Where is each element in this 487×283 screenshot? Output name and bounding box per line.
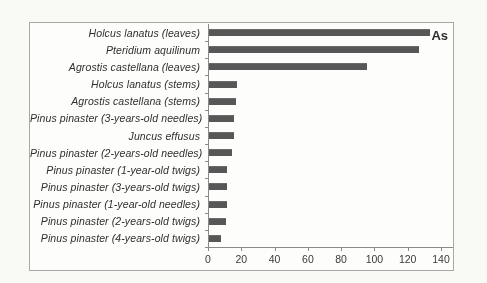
x-axis-tick <box>341 248 342 251</box>
x-axis-tick-label: 80 <box>335 253 347 265</box>
x-axis-tick-label: 100 <box>366 253 384 265</box>
bar <box>209 235 221 242</box>
chart-row: Pinus pinaster (1-year-old twigs) <box>30 161 453 178</box>
bar-track <box>208 144 453 161</box>
chart-row: Pinus pinaster (2-years-old needles) <box>30 144 453 161</box>
x-axis-tick-label: 140 <box>432 253 450 265</box>
bar-track <box>208 58 453 75</box>
bar <box>209 63 367 70</box>
chart-row: Pinus pinaster (3-years-old twigs) <box>30 178 453 195</box>
category-label: Pinus pinaster (4-years-old twigs) <box>30 232 208 244</box>
bar <box>209 166 227 173</box>
x-axis-tick <box>408 248 409 251</box>
x-axis-tick <box>308 248 309 251</box>
bar <box>209 201 227 208</box>
chart-row: Agrostis castellana (leaves) <box>30 58 453 75</box>
x-axis-tick-label: 0 <box>205 253 211 265</box>
bar-track <box>208 93 453 110</box>
chart-row: Agrostis castellana (stems) <box>30 93 453 110</box>
x-axis-tick-label: 60 <box>302 253 314 265</box>
chart-row: Pinus pinaster (4-years-old twigs) <box>30 230 453 247</box>
bar-track <box>208 161 453 178</box>
x-axis-tick <box>208 248 209 251</box>
bar-chart: Holcus lanatus (leaves)Pteridium aquilin… <box>29 22 454 271</box>
category-label: Holcus lanatus (stems) <box>30 78 208 90</box>
bar <box>209 149 232 156</box>
chart-row: Holcus lanatus (leaves) <box>30 24 453 41</box>
bar <box>209 132 234 139</box>
chart-row: Pinus pinaster (2-years-old twigs) <box>30 213 453 230</box>
bar-track <box>208 110 453 127</box>
category-label: Pinus pinaster (2-years-old needles) <box>30 147 208 159</box>
bar-track <box>208 24 453 41</box>
x-axis-tick <box>374 248 375 251</box>
category-label: Juncus effusus <box>30 130 208 142</box>
category-label: Pteridium aquilinum <box>30 44 208 56</box>
category-label: Holcus lanatus (leaves) <box>30 27 208 39</box>
bar <box>209 46 419 53</box>
category-label: Pinus pinaster (3-years-old needles) <box>30 112 208 124</box>
category-label: Pinus pinaster (2-years-old twigs) <box>30 215 208 227</box>
bar <box>209 81 237 88</box>
bar-track <box>208 178 453 195</box>
bar-track <box>208 196 453 213</box>
bar <box>209 29 430 36</box>
category-label: Pinus pinaster (1-year-old needles) <box>30 198 208 210</box>
bar-track <box>208 41 453 58</box>
x-axis-tick-label: 40 <box>269 253 281 265</box>
x-axis-tick <box>241 248 242 251</box>
chart-row: Pinus pinaster (1-year-old needles) <box>30 196 453 213</box>
x-axis-tick <box>441 248 442 251</box>
bar-track <box>208 127 453 144</box>
chart-row: Pinus pinaster (3-years-old needles) <box>30 110 453 127</box>
category-label: Agrostis castellana (stems) <box>30 95 208 107</box>
category-label: Pinus pinaster (1-year-old twigs) <box>30 164 208 176</box>
bar-track <box>208 75 453 92</box>
category-label: Agrostis castellana (leaves) <box>30 61 208 73</box>
bar-track <box>208 213 453 230</box>
bar <box>209 98 236 105</box>
chart-row: Holcus lanatus (stems) <box>30 75 453 92</box>
bar <box>209 115 234 122</box>
chart-rows: Holcus lanatus (leaves)Pteridium aquilin… <box>30 24 453 247</box>
category-label: Pinus pinaster (3-years-old twigs) <box>30 181 208 193</box>
chart-row: Juncus effusus <box>30 127 453 144</box>
x-axis-tick <box>275 248 276 251</box>
bar <box>209 183 227 190</box>
x-axis-tick-label: 20 <box>235 253 247 265</box>
chart-title-element-symbol: As <box>431 28 448 43</box>
figure-canvas: Holcus lanatus (leaves)Pteridium aquilin… <box>0 0 487 283</box>
chart-row: Pteridium aquilinum <box>30 41 453 58</box>
bar <box>209 218 226 225</box>
x-axis-tick-label: 120 <box>399 253 417 265</box>
x-axis: 020406080100120140 <box>208 247 453 272</box>
bar-track <box>208 230 453 247</box>
